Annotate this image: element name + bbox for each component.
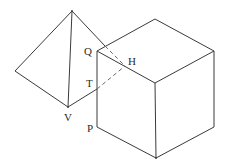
cube-edge-bottom-left: [97, 127, 156, 158]
label-t: T: [86, 77, 93, 89]
label-q: Q: [84, 45, 92, 57]
cube-edge-bottom-right: [156, 127, 214, 158]
label-v: V: [64, 111, 72, 123]
diagram-canvas: Q H T V P: [0, 0, 228, 167]
pyramid-edge-left-v: [15, 71, 68, 107]
cube-top-face: [97, 19, 214, 83]
pyramid: [15, 11, 125, 107]
pyramid-edge-t-h-hidden: [97, 66, 125, 89]
cube-bottom-point: [155, 157, 157, 159]
label-p: P: [87, 122, 93, 134]
pyramid-edge-apex-h-hidden: [105, 46, 125, 66]
geometry-figure: Q H T V P: [0, 0, 228, 167]
label-h: H: [128, 55, 136, 67]
pyramid-edge-apex-right-visible: [72, 11, 105, 46]
pyramid-edge-apex-v: [68, 11, 72, 107]
cube-edge-front-vertical: [155, 83, 156, 158]
point-v: [67, 106, 69, 108]
pyramid-edge-apex-left: [15, 11, 72, 71]
apex-point: [71, 10, 73, 12]
cube: [97, 19, 214, 158]
pyramid-edge-v-t: [68, 89, 97, 107]
